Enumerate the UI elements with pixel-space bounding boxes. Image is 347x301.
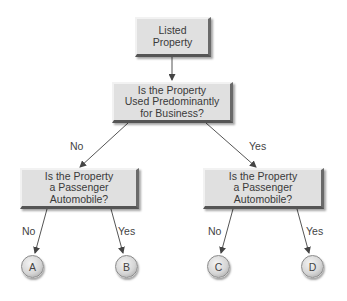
outcome-c: C	[207, 255, 230, 278]
arrow-left-no	[35, 209, 47, 253]
edge-label-right-yes: Yes	[306, 225, 323, 237]
edge-label-q1-no: No	[70, 140, 83, 152]
node-listed-property: Listed Property	[135, 17, 211, 57]
node-right-passenger-automobile-question: Is the Property a Passenger Automobile?	[203, 168, 324, 209]
edge-label-left-no: No	[22, 225, 35, 237]
edge-label-q1-yes: Yes	[249, 140, 266, 152]
node-left-passenger-automobile-question: Is the Property a Passenger Automobile?	[20, 168, 139, 209]
outcome-b: B	[115, 255, 138, 278]
outcome-d: D	[301, 255, 324, 278]
outcome-a: A	[21, 255, 44, 278]
arrow-right-no	[221, 209, 233, 253]
node-predominantly-business-question: Is the Property Used Predominantly for B…	[112, 82, 233, 123]
edge-label-right-no: No	[208, 225, 221, 237]
arrow-q1-no	[80, 123, 128, 167]
edge-label-left-yes: Yes	[118, 225, 135, 237]
